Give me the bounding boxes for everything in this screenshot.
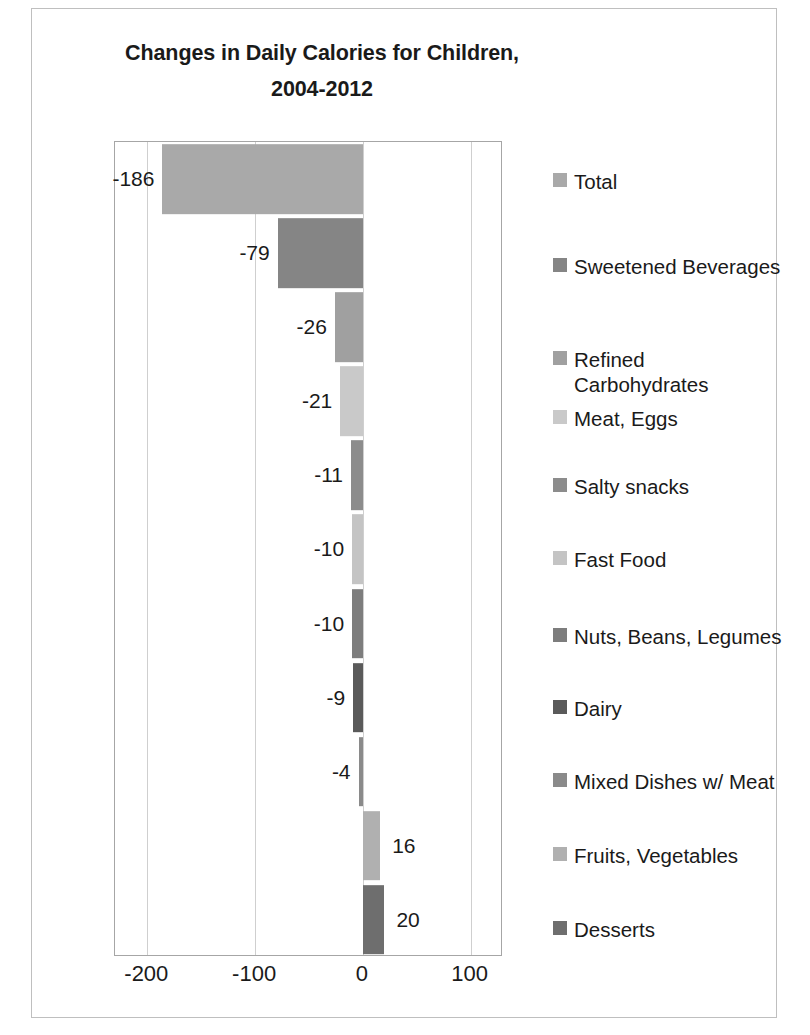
chart-title-line-1: Changes in Daily Calories for Children, — [92, 35, 552, 71]
page-frame: Changes in Daily Calories for Children, … — [31, 8, 777, 1018]
legend-label: Fruits, Vegetables — [574, 843, 738, 868]
bar-mixed-dishes-w-meat[interactable] — [359, 737, 363, 807]
bar-value-label: 20 — [396, 908, 419, 932]
legend-item-salty-snacks[interactable]: Salty snacks — [553, 474, 689, 499]
legend-label: Nuts, Beans, Legumes — [574, 624, 781, 649]
bar-value-label: -4 — [332, 760, 351, 784]
x-tick-label--100: -100 — [232, 961, 276, 987]
legend-label: Meat, Eggs — [574, 406, 678, 431]
legend-item-meat-eggs[interactable]: Meat, Eggs — [553, 406, 678, 431]
legend-item-desserts[interactable]: Desserts — [553, 917, 655, 942]
legend-swatch-icon — [553, 551, 567, 565]
bar-value-label: -9 — [327, 686, 346, 710]
legend-swatch-icon — [553, 173, 567, 187]
legend-swatch-icon — [553, 628, 567, 642]
x-tick-label-0: 0 — [356, 961, 368, 987]
chart-title-line-2: 2004-2012 — [92, 71, 552, 107]
bar-fruits-vegetables[interactable] — [363, 811, 380, 881]
legend-swatch-icon — [553, 258, 567, 272]
x-tick-label-100: 100 — [451, 961, 488, 987]
legend-swatch-icon — [553, 351, 567, 365]
legend-label: Salty snacks — [574, 474, 689, 499]
legend-swatch-icon — [553, 773, 567, 787]
legend-label: Sweetened Beverages — [574, 254, 780, 279]
legend-swatch-icon — [553, 478, 567, 492]
x-tick-label--200: -200 — [124, 961, 168, 987]
bar-value-label: -10 — [314, 612, 344, 636]
legend-label: Total — [574, 169, 617, 194]
bar-row: -10 — [115, 512, 501, 586]
legend-item-total[interactable]: Total — [553, 169, 617, 194]
bar-dairy[interactable] — [353, 663, 363, 733]
bar-desserts[interactable] — [363, 885, 385, 955]
bar-value-label: -79 — [239, 241, 269, 265]
bar-value-label: 16 — [392, 834, 415, 858]
legend-item-mixed-dishes-w-meat[interactable]: Mixed Dishes w/ Meat — [553, 769, 775, 794]
bar-nuts-beans-legumes[interactable] — [352, 589, 363, 659]
bar-row: -11 — [115, 438, 501, 512]
bar-row: 16 — [115, 809, 501, 883]
bar-row: 20 — [115, 883, 501, 957]
bar-row: -9 — [115, 661, 501, 735]
bar-row: -21 — [115, 364, 501, 438]
x-axis: -200-1000100 — [114, 961, 502, 1001]
bar-series: -186-79-26-21-11-10-10-9-41620 — [115, 142, 501, 955]
bar-row: -79 — [115, 216, 501, 290]
bar-refined-carbohydrates[interactable] — [335, 292, 363, 362]
chart-title: Changes in Daily Calories for Children, … — [92, 35, 552, 107]
legend-label: Refined Carbohydrates — [574, 347, 708, 397]
legend-swatch-icon — [553, 921, 567, 935]
bar-row: -26 — [115, 290, 501, 364]
bar-value-label: -10 — [314, 537, 344, 561]
legend-item-refined-carbohydrates[interactable]: Refined Carbohydrates — [553, 347, 708, 397]
legend-item-dairy[interactable]: Dairy — [553, 696, 622, 721]
bar-salty-snacks[interactable] — [351, 441, 363, 511]
legend-label: Mixed Dishes w/ Meat — [574, 769, 775, 794]
legend-label: Fast Food — [574, 547, 666, 572]
legend-swatch-icon — [553, 847, 567, 861]
bar-value-label: -11 — [314, 463, 343, 487]
legend-label: Desserts — [574, 917, 655, 942]
legend-swatch-icon — [553, 410, 567, 424]
bar-value-label: -26 — [297, 315, 327, 339]
plot-area: -186-79-26-21-11-10-10-9-41620 — [114, 141, 502, 956]
bar-row: -186 — [115, 142, 501, 216]
bar-value-label: -186 — [112, 167, 154, 191]
bar-fast-food[interactable] — [352, 515, 363, 585]
bar-total[interactable] — [162, 144, 362, 214]
bar-row: -10 — [115, 586, 501, 660]
bar-sweetened-beverages[interactable] — [278, 218, 363, 288]
bar-value-label: -21 — [302, 389, 332, 413]
bar-row: -4 — [115, 735, 501, 809]
legend-label: Dairy — [574, 696, 622, 721]
legend-item-sweetened-beverages[interactable]: Sweetened Beverages — [553, 254, 780, 279]
legend-item-nuts-beans-legumes[interactable]: Nuts, Beans, Legumes — [553, 624, 781, 649]
legend-item-fast-food[interactable]: Fast Food — [553, 547, 666, 572]
bar-meat-eggs[interactable] — [340, 366, 363, 436]
legend-item-fruits-vegetables[interactable]: Fruits, Vegetables — [553, 843, 738, 868]
legend-swatch-icon — [553, 700, 567, 714]
